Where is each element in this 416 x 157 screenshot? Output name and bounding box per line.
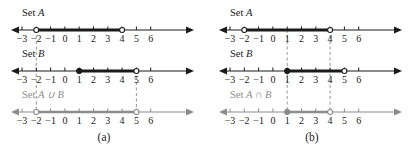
- panel-b-caption: (b): [208, 131, 416, 143]
- tick-label--3-row-1: −3: [225, 74, 236, 85]
- tick-label-0-row-1: 0: [270, 74, 275, 85]
- arrow-right-row-1: [186, 67, 194, 74]
- tick-label-1-row-1: 1: [77, 74, 82, 85]
- tick-label-0-row-2: 0: [270, 115, 275, 126]
- tick-label-6-row-0: 6: [148, 33, 153, 44]
- tick-label-5-row-2: 5: [342, 115, 347, 126]
- endpoint-start-row-0-open: [34, 28, 39, 33]
- tick-label--1-row-1: −1: [253, 74, 264, 85]
- panel-a-caption: (a): [0, 131, 208, 143]
- tick-label-4-row-0: 4: [328, 33, 333, 44]
- tick-label-4-row-1: 4: [328, 74, 333, 85]
- tick-label-6-row-2: 6: [356, 115, 361, 126]
- tick-label--2-row-1: −2: [239, 74, 250, 85]
- tick-label-3-row-2: 3: [313, 115, 318, 126]
- endpoint-end-row-2-open: [328, 110, 333, 115]
- tick-label--1-row-0: −1: [45, 33, 56, 44]
- tick-label--1-row-2: −1: [45, 115, 56, 126]
- endpoint-end-row-1-open: [134, 69, 139, 74]
- tick-label-3-row-0: 3: [313, 33, 318, 44]
- tick-label-1-row-0: 1: [285, 33, 290, 44]
- arrow-right-row-0: [394, 26, 402, 33]
- set-label-row-1: Set B: [22, 48, 45, 59]
- tick-label-3-row-1: 3: [105, 74, 110, 85]
- tick-label--3-row-0: −3: [225, 33, 236, 44]
- set-label-row-0: Set A: [22, 7, 45, 18]
- panel-a: Set A−3−2−10123456Set B−3−2−10123456Set …: [0, 0, 208, 157]
- tick-label-5-row-0: 5: [342, 33, 347, 44]
- tick-label-4-row-0: 4: [120, 33, 125, 44]
- tick-label--3-row-1: −3: [17, 74, 28, 85]
- tick-label--1-row-0: −1: [253, 33, 264, 44]
- tick-label--3-row-0: −3: [17, 33, 28, 44]
- tick-label-1-row-2: 1: [77, 115, 82, 126]
- tick-label-5-row-1: 5: [134, 74, 139, 85]
- tick-label-6-row-2: 6: [148, 115, 153, 126]
- tick-label-4-row-2: 4: [120, 115, 125, 126]
- tick-label-4-row-2: 4: [328, 115, 333, 126]
- tick-label-2-row-2: 2: [91, 115, 96, 126]
- tick-label--2-row-2: −2: [31, 115, 42, 126]
- set-operations-figure: Set A−3−2−10123456Set B−3−2−10123456Set …: [0, 0, 416, 157]
- set-label-row-2: Set A ∩ B: [230, 89, 272, 100]
- tick-label--1-row-1: −1: [45, 74, 56, 85]
- tick-label-1-row-1: 1: [285, 74, 290, 85]
- tick-label--2-row-2: −2: [239, 115, 250, 126]
- endpoint-start-row-2-open: [34, 110, 39, 115]
- tick-label-5-row-1: 5: [342, 74, 347, 85]
- tick-label-2-row-1: 2: [299, 74, 304, 85]
- tick-label-4-row-1: 4: [120, 74, 125, 85]
- tick-label-2-row-0: 2: [91, 33, 96, 44]
- tick-label-5-row-0: 5: [134, 33, 139, 44]
- tick-label-1-row-0: 1: [77, 33, 82, 44]
- endpoint-end-row-0-open: [120, 28, 125, 33]
- tick-label-5-row-2: 5: [134, 115, 139, 126]
- tick-label-0-row-1: 0: [62, 74, 67, 85]
- endpoint-end-row-2-open: [134, 110, 139, 115]
- endpoint-end-row-1-open: [342, 69, 347, 74]
- tick-label-0-row-2: 0: [62, 115, 67, 126]
- endpoint-start-row-0-open: [242, 28, 247, 33]
- tick-label-2-row-1: 2: [91, 74, 96, 85]
- endpoint-start-row-1-closed: [77, 68, 82, 73]
- endpoint-start-row-1-closed: [285, 68, 290, 73]
- set-label-row-0: Set A: [230, 7, 253, 18]
- tick-label-3-row-0: 3: [105, 33, 110, 44]
- arrow-right-row-1: [394, 67, 402, 74]
- arrow-right-row-0: [186, 26, 194, 33]
- tick-label--3-row-2: −3: [17, 115, 28, 126]
- arrow-right-row-2: [394, 108, 402, 115]
- set-label-row-2: Set A ∪ B: [22, 89, 65, 100]
- arrow-right-row-2: [186, 108, 194, 115]
- set-label-row-1: Set B: [230, 48, 253, 59]
- endpoint-start-row-2-closed: [285, 109, 290, 114]
- tick-label--2-row-1: −2: [31, 74, 42, 85]
- tick-label-0-row-0: 0: [62, 33, 67, 44]
- tick-label--2-row-0: −2: [239, 33, 250, 44]
- tick-label-6-row-1: 6: [356, 74, 361, 85]
- tick-label-2-row-0: 2: [299, 33, 304, 44]
- panel-b: Set A−3−2−10123456Set B−3−2−10123456Set …: [208, 0, 416, 157]
- tick-label-6-row-1: 6: [148, 74, 153, 85]
- tick-label--3-row-2: −3: [225, 115, 236, 126]
- tick-label-2-row-2: 2: [299, 115, 304, 126]
- tick-label-3-row-1: 3: [313, 74, 318, 85]
- tick-label-1-row-2: 1: [285, 115, 290, 126]
- tick-label-0-row-0: 0: [270, 33, 275, 44]
- tick-label-3-row-2: 3: [105, 115, 110, 126]
- endpoint-end-row-0-open: [328, 28, 333, 33]
- tick-label--2-row-0: −2: [31, 33, 42, 44]
- tick-label--1-row-2: −1: [253, 115, 264, 126]
- tick-label-6-row-0: 6: [356, 33, 361, 44]
